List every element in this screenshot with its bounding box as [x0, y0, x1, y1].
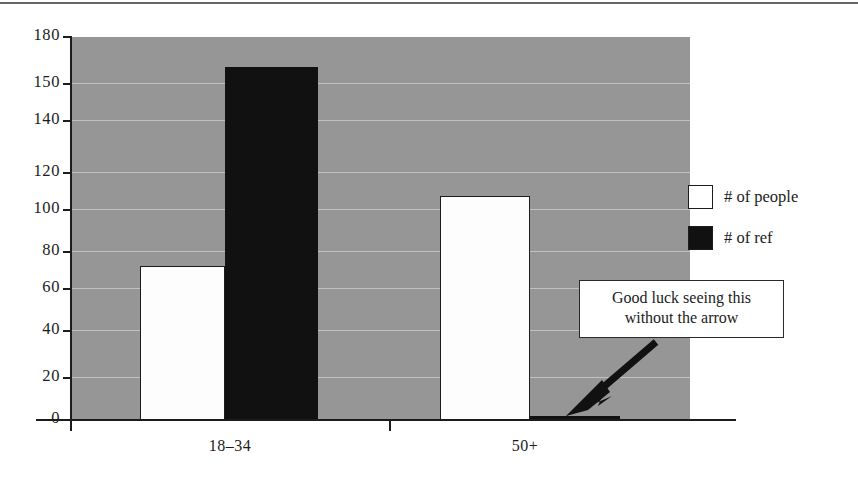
- y-tick-label-120: 120: [33, 161, 60, 181]
- gridline-80: [72, 251, 690, 252]
- y-tick-mark-150: [63, 83, 72, 85]
- y-tick-label-40: 40: [42, 319, 60, 339]
- callout-arrow-icon: [540, 330, 730, 430]
- page-top-rule: [0, 2, 858, 4]
- legend-item-people[interactable]: # of people: [688, 185, 798, 209]
- y-tick-mark-100: [63, 209, 72, 211]
- x-tick-mark-middle: [389, 420, 391, 431]
- y-axis-spine: [70, 36, 72, 429]
- y-tick-label-60: 60: [42, 277, 60, 297]
- x-tick-mark-left: [70, 420, 72, 431]
- legend-swatch-white-icon: [688, 185, 713, 209]
- gridline-120: [72, 172, 690, 173]
- callout-line-2: without the arrow: [588, 308, 775, 328]
- y-tick-mark-60: [63, 288, 72, 290]
- legend-swatch-black-icon: [688, 226, 713, 250]
- legend-label-ref: # of ref: [724, 228, 773, 248]
- y-tick-label-140: 140: [33, 109, 60, 129]
- y-tick-mark-80: [63, 251, 72, 253]
- y-tick-label-20: 20: [42, 366, 60, 386]
- y-tick-label-180: 180: [33, 25, 60, 45]
- chart-page: 180 150 140 120 100 80 60 40 20 0 18–34 …: [0, 0, 858, 478]
- bar-ref-18-34[interactable]: [225, 67, 318, 420]
- y-tick-mark-40: [63, 330, 72, 332]
- gridline-150: [72, 83, 690, 84]
- callout-line-1: Good luck seeing this: [588, 288, 775, 308]
- gridline-100: [72, 209, 690, 210]
- legend: # of people # of ref: [688, 185, 798, 267]
- y-tick-mark-140: [63, 120, 72, 122]
- y-tick-mark-180: [63, 36, 72, 38]
- y-tick-mark-120: [63, 172, 72, 174]
- y-tick-label-0: 0: [51, 408, 60, 428]
- x-tick-label-50plus: 50+: [455, 437, 595, 455]
- y-tick-mark-20: [63, 377, 72, 379]
- bar-people-50plus[interactable]: [440, 196, 530, 420]
- y-tick-label-80: 80: [42, 240, 60, 260]
- legend-label-people: # of people: [724, 187, 798, 207]
- y-tick-label-100: 100: [33, 198, 60, 218]
- gridline-140: [72, 120, 690, 121]
- x-tick-label-18-34: 18–34: [160, 437, 300, 455]
- bar-people-18-34[interactable]: [140, 266, 225, 420]
- legend-item-ref[interactable]: # of ref: [688, 226, 798, 250]
- y-tick-label-150: 150: [33, 72, 60, 92]
